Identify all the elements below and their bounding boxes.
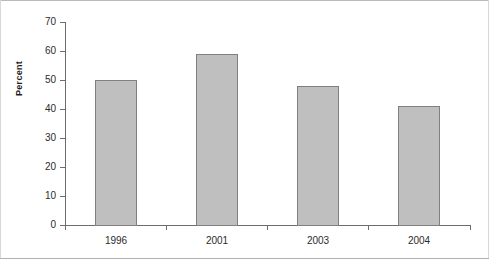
y-axis-tick-label-0: 0	[16, 220, 56, 230]
x-axis-tick-boundary-0	[65, 225, 66, 230]
bar-2001	[196, 54, 238, 226]
frame-rule-bottom	[0, 258, 489, 259]
x-axis-tick-boundary-1	[166, 225, 167, 230]
y-axis-tick-label-10: 10	[16, 191, 56, 201]
y-axis-tick-20	[60, 167, 65, 168]
y-axis-tick-label-50: 50	[16, 75, 56, 85]
frame-rule-left	[0, 0, 1, 259]
y-axis-tick-label-70: 70	[16, 17, 56, 27]
x-axis-tick-boundary-3	[368, 225, 369, 230]
y-axis-tick-label-60: 60	[16, 46, 56, 56]
y-axis-tick-label-40: 40	[16, 104, 56, 114]
x-axis-label-1996: 1996	[76, 235, 156, 246]
y-axis-tick-50	[60, 80, 65, 81]
x-axis-tick-boundary-2	[267, 225, 268, 230]
y-axis-tick-10	[60, 196, 65, 197]
y-axis-tick-70	[60, 22, 65, 23]
x-axis-label-2003: 2003	[278, 235, 358, 246]
y-axis-tick-30	[60, 138, 65, 139]
y-axis-line	[65, 22, 66, 226]
x-axis-label-2004: 2004	[379, 235, 459, 246]
y-axis-tick-label-20: 20	[16, 162, 56, 172]
y-axis-tick-label-30: 30	[16, 133, 56, 143]
y-axis-tick-60	[60, 51, 65, 52]
y-axis-tick-40	[60, 109, 65, 110]
bar-1996	[95, 80, 137, 226]
x-axis-end-cap	[470, 225, 471, 230]
frame-rule-top	[0, 0, 489, 1]
x-axis-label-2001: 2001	[177, 235, 257, 246]
bar-2003	[297, 86, 339, 226]
bar-2004	[398, 106, 440, 226]
bar-chart-figure: Percent 70 60 50 40 30 20 10 0 1996 2001…	[0, 0, 489, 271]
